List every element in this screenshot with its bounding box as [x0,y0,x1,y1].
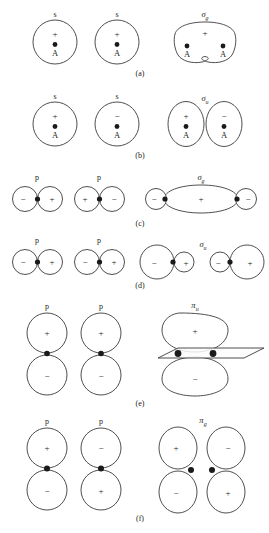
nucleus-dot-left [185,44,190,49]
nucleus-dot-left [170,259,175,264]
orbital-type-label: p [35,173,39,182]
orbital-type-label: p [35,236,39,245]
sign-label-left: + [183,111,188,121]
sign-label-right: − [111,194,116,204]
panel-caption: (c) [136,219,145,228]
sign-label-4: + [247,258,252,268]
atom-label-left: A [184,49,191,59]
sign-label-right: + [111,257,116,267]
sign-label-bottom: − [44,486,49,496]
panel-b-atomic-orbital-2: s − A [95,92,139,146]
sigma-u-big-lobe-left [140,245,174,279]
panel-c: p − + p + − σg − + − [13,172,257,228]
mo-label: σu [201,93,208,105]
panel-caption: (b) [135,151,145,160]
orbital-type-label: p [97,236,101,245]
panel-e-molecular-orbital: πu + − [158,300,264,396]
panel-a: s + A s + A σg + A A (a) [33,9,236,78]
sign-label-bottom: − [98,371,103,381]
panel-a-atomic-orbital-1: s + A [33,10,77,64]
nucleus-dot [53,42,58,47]
atom-label: A [52,130,59,140]
atom-label: A [114,48,121,58]
mo-subscript: u [204,245,207,251]
atom-label: A [52,48,59,58]
sign-label-lower: − [192,374,197,384]
sign-label-left: − [20,257,25,267]
panel-d-atomic-orbital-2: p − + [75,236,125,275]
sign-label-bottom-right: + [225,488,230,498]
sign-label-left: − [20,194,25,204]
orbital-type-label: s [53,92,56,101]
sign-label-top: + [44,328,49,338]
sign-label-bottom: + [98,486,103,496]
sign-label-upper: + [192,326,197,336]
nucleus-dot [115,124,120,129]
sign-label-3: − [215,258,220,268]
nucleus-dot-left [175,350,182,357]
orbital-type-label: p [99,302,103,311]
sign-label: + [52,29,57,39]
nucleus-dot-left [184,124,189,129]
mo-subscript: u [206,99,209,105]
nucleus-dot [44,351,50,357]
sign-label: + [52,111,57,121]
sign-label: + [114,29,119,39]
panel-e: p + − p + − πu + − [27,300,264,408]
panel-f-atomic-orbital-1: p + − [27,417,67,510]
panel-e-atomic-orbital-2: p + − [81,302,121,395]
atom-label-right: A [220,49,227,59]
sign-label-left: − [82,257,87,267]
nucleus-dot-left [188,467,194,473]
mo-subscript: g [204,421,207,427]
atom-label-left: A [183,130,190,140]
nucleus-dot [98,466,104,472]
panel-a-atomic-orbital-2: s + A [95,10,139,64]
orbital-type-label: s [115,10,118,19]
sign-label-left: − [151,194,156,204]
nucleus-dot-right [234,196,239,201]
panel-f: p + − p − + πg + − − + [27,415,245,523]
atom-label-right: A [221,130,228,140]
figure-canvas: s + A s + A σg + A A (a) [0,0,269,533]
panel-caption: (e) [136,399,145,408]
panel-b: s + A s − A σu + − A A (b) [33,92,242,160]
sign-label-top-left: + [173,443,178,453]
panel-f-molecular-orbital: πg + − − + [159,415,245,513]
sign-label-top-right: − [225,443,230,453]
nucleus-dot-right [221,44,226,49]
molecular-orbital-figure: s + A s + A σg + A A (a) [0,0,269,533]
panel-caption: (a) [136,69,145,78]
mo-subscript: g [202,178,205,184]
panel-c-atomic-orbital-1: p − + [13,173,63,212]
orbital-type-label: p [45,417,49,426]
nucleus-dot-right [222,124,227,129]
panel-c-atomic-orbital-2: p + − [75,173,125,212]
nucleus-dot-right [210,350,217,357]
nucleus-dot [35,259,40,264]
sign-label-top: + [98,328,103,338]
orbital-type-label: s [53,10,56,19]
nucleus-dot [115,42,120,47]
orbital-type-label: p [99,417,103,426]
sign-label-right: + [49,194,54,204]
panel-d: p − + p − + σu − + [13,236,265,290]
mo-label: σg [197,172,204,184]
sign-label-right: − [245,194,250,204]
mo-label: σg [201,9,208,21]
mo-subscript: u [196,306,199,312]
nucleus-dot [35,196,40,201]
orbital-type-label: s [115,92,118,101]
mo-subscript: g [206,15,209,21]
mo-label: πu [191,300,198,312]
nucleus-dot-right [209,467,215,473]
mo-label: σu [199,239,206,251]
sign-label-bottom: − [44,371,49,381]
sign-label-left: + [82,194,87,204]
orbital-type-label: p [97,173,101,182]
sign-label-center: + [198,194,203,204]
sign-label-bottom-left: − [173,488,178,498]
sign-label: − [114,111,119,121]
sign-label-right: − [221,111,226,121]
atom-label: A [114,130,121,140]
